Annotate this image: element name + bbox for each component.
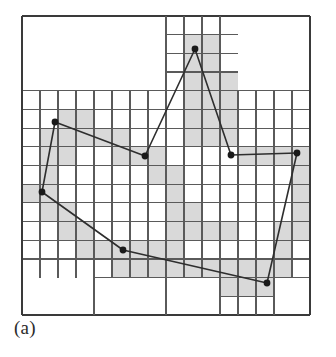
shaded-quadtree-cell [274, 147, 292, 166]
shaded-quadtree-cell [184, 72, 202, 91]
shaded-quadtree-cell [256, 147, 274, 166]
shaded-quadtree-cell [112, 259, 130, 278]
shaded-quadtree-cell [202, 35, 220, 54]
shaded-quadtree-cell [148, 147, 166, 166]
shaded-quadtree-cell [76, 109, 94, 128]
shaded-quadtree-cell [130, 240, 148, 259]
shaded-quadtree-cell [238, 259, 256, 278]
shaded-quadtree-cell [166, 222, 184, 241]
shaded-quadtree-cell [184, 222, 202, 241]
shaded-quadtree-cell [22, 184, 40, 203]
polygon-vertex [264, 280, 271, 287]
polygon-vertex [39, 189, 46, 196]
polygon-vertex [294, 150, 301, 157]
shaded-quadtree-cell [58, 128, 76, 147]
shaded-quadtree-cell [202, 91, 220, 110]
shaded-quadtree-cell [220, 222, 238, 241]
shaded-quadtree-cell [40, 203, 58, 222]
shaded-quadtree-cell [292, 166, 310, 185]
shaded-quadtree-cell [166, 166, 184, 185]
shaded-quadtree-cell [202, 72, 220, 91]
shaded-quadtree-cell [184, 109, 202, 128]
shaded-quadtree-cell [166, 240, 184, 259]
shaded-quadtree-cell [184, 203, 202, 222]
shaded-quadtree-cell [220, 109, 238, 128]
shaded-quadtree-cell [130, 259, 148, 278]
shaded-quadtree-cell [202, 53, 220, 72]
polygon-vertex [228, 152, 235, 159]
shaded-quadtree-cell [166, 203, 184, 222]
shaded-quadtree-cell [274, 259, 292, 278]
shaded-quadtree-cell [238, 147, 256, 166]
shaded-quadtree-cell [148, 259, 166, 278]
shaded-quadtree-cell [202, 128, 220, 147]
figure-caption: (a) [14, 318, 36, 337]
shaded-quadtree-cell [58, 222, 76, 241]
shaded-quadtree-cell [166, 184, 184, 203]
quadtree-figure-svg [0, 0, 336, 357]
shaded-quadtree-cell [292, 222, 310, 241]
shaded-quadtree-cell [184, 91, 202, 110]
shaded-quadtree-cell [202, 222, 220, 241]
shaded-quadtree-cell [58, 147, 76, 166]
polygon-vertex [52, 119, 59, 126]
shaded-quadtree-cell [58, 109, 76, 128]
shaded-quadtree-cell [40, 166, 58, 185]
shaded-quadtree-cell [148, 166, 166, 185]
polygon-vertex [192, 46, 199, 53]
polygon-vertex [142, 153, 149, 160]
shaded-quadtree-cell [76, 240, 94, 259]
shaded-quadtree-cell [220, 72, 238, 91]
shaded-quadtree-cell [292, 184, 310, 203]
shaded-quadtree-cell [94, 240, 112, 259]
shaded-quadtree-cell [220, 91, 238, 110]
shaded-quadtree-cell [292, 203, 310, 222]
shaded-quadtree-cell [184, 128, 202, 147]
shaded-quadtree-cell [40, 128, 58, 147]
shaded-quadtree-cell [76, 222, 94, 241]
figure-container: (a) [0, 0, 336, 357]
polygon-vertex [120, 247, 127, 254]
shaded-quadtree-cell [220, 278, 238, 297]
